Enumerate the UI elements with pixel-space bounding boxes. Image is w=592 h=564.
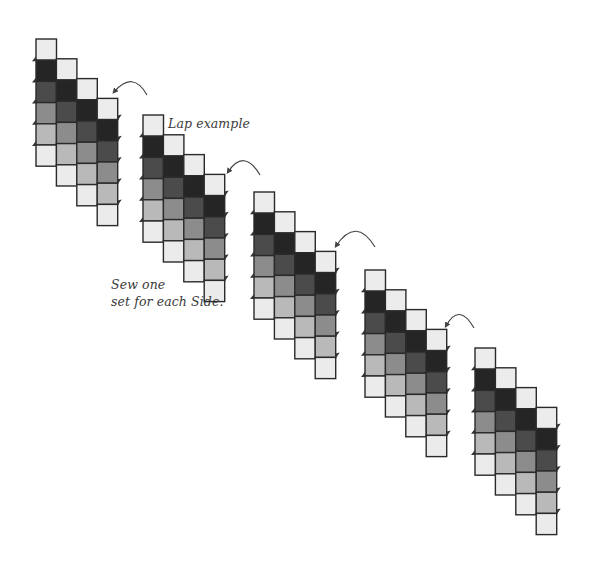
fabric-square — [495, 474, 516, 495]
fabric-square — [274, 254, 295, 275]
fabric-square — [385, 396, 406, 417]
lap-example-label: Lap example — [168, 115, 250, 132]
quilt-strip-diagram: Lap example Sew one set for each Side. — [0, 0, 592, 564]
fabric-square — [365, 376, 386, 397]
fabric-square — [495, 431, 516, 452]
fabric-square — [204, 238, 225, 259]
rotate-arrow-3-icon — [336, 231, 375, 247]
fabric-square — [204, 196, 225, 217]
fabric-square — [254, 213, 275, 234]
fabric-square — [97, 183, 118, 204]
fabric-square — [77, 100, 98, 121]
fabric-square — [406, 331, 427, 352]
seam-notch-icon — [557, 508, 561, 514]
fabric-square — [516, 409, 537, 430]
rotate-arrow-1-icon — [114, 82, 147, 95]
fabric-square — [475, 390, 496, 411]
fabric-square — [184, 176, 205, 197]
fabric-square — [274, 297, 295, 318]
fabric-square — [295, 338, 316, 359]
fabric-square — [406, 394, 427, 415]
fabric-square — [426, 393, 447, 414]
fabric-square — [536, 471, 557, 492]
fabric-square — [315, 315, 336, 336]
fabric-square — [163, 220, 184, 241]
seam-notch-icon — [557, 487, 561, 493]
fabric-square — [426, 351, 447, 372]
fabric-square — [97, 120, 118, 141]
fabric-square — [295, 253, 316, 274]
fabric-square — [495, 453, 516, 474]
fabric-square — [516, 388, 537, 409]
fabric-square — [475, 348, 496, 369]
fabric-square — [56, 101, 77, 122]
fabric-square — [36, 81, 57, 102]
strip-1 — [32, 39, 122, 226]
fabric-square — [516, 494, 537, 515]
fabric-square — [184, 155, 205, 176]
fabric-square — [36, 124, 57, 145]
fabric-square — [516, 430, 537, 451]
fabric-square — [426, 435, 447, 456]
seam-notch-icon — [32, 77, 36, 82]
fabric-square — [315, 336, 336, 357]
sew-instruction-line-2: set for each Side. — [111, 293, 224, 310]
fabric-square — [274, 233, 295, 254]
fabric-square — [274, 275, 295, 296]
fabric-square — [77, 121, 98, 142]
lap-example-text: Lap example — [168, 116, 250, 131]
fabric-square — [97, 98, 118, 119]
fabric-square — [406, 310, 427, 331]
fabric-square — [56, 80, 77, 101]
fabric-square — [495, 389, 516, 410]
fabric-square — [143, 157, 164, 178]
fabric-square — [385, 290, 406, 311]
fabric-square — [274, 318, 295, 339]
fabric-square — [295, 316, 316, 337]
fabric-square — [385, 332, 406, 353]
fabric-square — [426, 329, 447, 350]
fabric-square — [56, 144, 77, 165]
fabric-square — [365, 270, 386, 291]
strip-4 — [361, 270, 451, 457]
fabric-square — [56, 165, 77, 186]
fabric-square — [143, 136, 164, 157]
strip-3 — [250, 192, 340, 379]
fabric-square — [274, 212, 295, 233]
fabric-square — [254, 192, 275, 213]
seam-notch-icon — [32, 141, 36, 146]
fabric-square — [77, 79, 98, 100]
fabric-square — [295, 295, 316, 316]
fabric-square — [184, 239, 205, 260]
fabric-square — [163, 241, 184, 262]
fabric-square — [77, 142, 98, 163]
fabric-square — [254, 277, 275, 298]
fabric-square — [365, 291, 386, 312]
fabric-square — [143, 221, 164, 242]
fabric-square — [184, 197, 205, 218]
fabric-square — [97, 162, 118, 183]
fabric-square — [36, 103, 57, 124]
fabric-square — [56, 59, 77, 80]
fabric-square — [495, 368, 516, 389]
fabric-square — [536, 429, 557, 450]
fabric-square — [36, 39, 57, 60]
fabric-square — [365, 312, 386, 333]
seam-notch-icon — [32, 56, 36, 61]
fabric-square — [163, 177, 184, 198]
fabric-square — [426, 414, 447, 435]
fabric-square — [36, 145, 57, 166]
fabric-square — [406, 352, 427, 373]
rotate-arrow-2-icon — [228, 161, 260, 175]
fabric-square — [385, 353, 406, 374]
fabric-square — [56, 122, 77, 143]
fabric-square — [426, 372, 447, 393]
fabric-square — [385, 311, 406, 332]
fabric-square — [143, 179, 164, 200]
fabric-square — [495, 410, 516, 431]
fabric-square — [77, 163, 98, 184]
seam-notch-icon — [32, 120, 36, 125]
fabric-square — [254, 256, 275, 277]
fabric-square — [516, 451, 537, 472]
fabric-square — [385, 375, 406, 396]
